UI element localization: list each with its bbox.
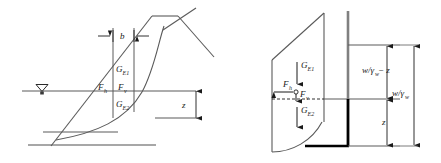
svg-text:E1: E1 — [307, 66, 315, 72]
dimension-total-right: w/γ w — [392, 46, 414, 145]
svg-text:F: F — [299, 89, 306, 99]
crossing-diagonal-line — [163, 8, 196, 30]
dimension-b: b — [98, 30, 149, 42]
svg-text:w: w — [405, 94, 409, 100]
label-gE1-left: G E1 — [116, 64, 129, 76]
far-slope-line — [178, 16, 214, 57]
dimension-lower-right: z — [381, 100, 387, 145]
figure-svg: b G E1 F h F v G E2 — [0, 0, 441, 163]
label-z-left: z — [181, 100, 186, 110]
svg-text:v: v — [124, 88, 127, 94]
force-gE2-right: G E2 — [297, 105, 314, 127]
svg-text:h: h — [289, 85, 292, 91]
svg-text:F: F — [117, 82, 124, 92]
svg-text:F: F — [282, 79, 289, 89]
dimension-upper-right: w/γ w − z — [362, 46, 390, 98]
wedge-top-diagonal — [272, 13, 324, 60]
water-table-triangle-icon — [36, 85, 48, 95]
svg-text:w/γ: w/γ — [362, 65, 375, 75]
dimension-z-left: z — [155, 91, 199, 118]
force-fh-right: F h — [274, 79, 293, 92]
force-gE1-right: G E1 — [297, 60, 314, 84]
force-application-point — [294, 90, 298, 94]
svg-text:h: h — [104, 88, 107, 94]
svg-text:z: z — [381, 117, 386, 127]
svg-text:F: F — [97, 82, 104, 92]
figure-container: b G E1 F h F v G E2 — [0, 0, 441, 163]
svg-text:− z: − z — [378, 65, 390, 75]
left-panel-group: b G E1 F h F v G E2 — [22, 8, 214, 146]
failure-surface-curve — [56, 26, 164, 140]
label-fv-left: F v — [117, 82, 127, 94]
label-gE2-left: G E2 — [116, 99, 129, 111]
svg-text:E2: E2 — [307, 111, 315, 117]
svg-text:E2: E2 — [122, 105, 130, 111]
label-b: b — [120, 31, 125, 41]
svg-text:E1: E1 — [122, 70, 130, 76]
right-panel-group: G E1 F h F v G E2 — [272, 11, 418, 152]
label-fh-left: F h — [97, 82, 107, 94]
svg-text:w/γ: w/γ — [392, 88, 405, 98]
svg-text:v: v — [306, 95, 309, 101]
